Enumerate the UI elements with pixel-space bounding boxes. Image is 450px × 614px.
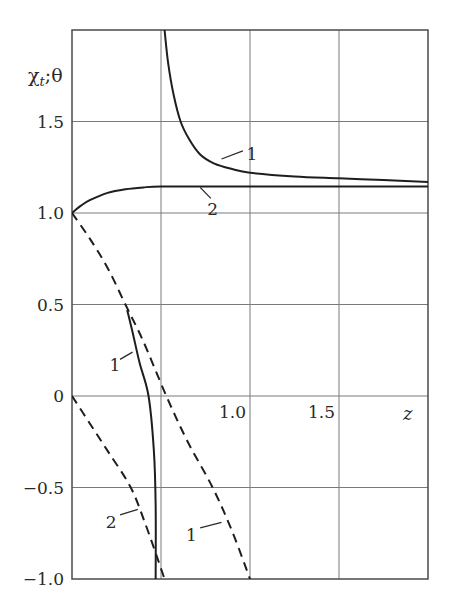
y-tick-label: 0.5 (37, 295, 64, 315)
curve-number-label: 2 (207, 199, 218, 219)
leader-line (120, 352, 132, 359)
curve-number-label: 2 (106, 512, 117, 532)
tick-labels: 1.51.00.50−0.5−1.01.01.5 (23, 112, 335, 590)
y-axis-label: χt;θ (28, 64, 63, 89)
y-tick-label: −1.0 (23, 569, 64, 589)
chart: 1.51.00.50−0.5−1.01.01.5 12121 χt;θ z (0, 0, 450, 614)
y-tick-label: 1.5 (37, 112, 64, 132)
y-tick-label: 1.0 (37, 203, 64, 223)
leader-line (120, 509, 138, 514)
curve-1-solid (127, 310, 156, 579)
y-tick-label: 0 (53, 386, 64, 406)
curve-number-label: 1 (186, 525, 197, 545)
y-tick-label: −0.5 (23, 478, 64, 498)
x-tick-label: 1.5 (308, 402, 335, 422)
curve-1-solid (165, 30, 428, 182)
leader-line (222, 151, 243, 159)
leader-line (200, 187, 211, 198)
x-tick-label: 1.0 (219, 402, 246, 422)
x-axis-label: z (402, 403, 413, 424)
curve-number-label: 1 (246, 144, 257, 164)
curve-number-label: 1 (109, 355, 120, 375)
leader-line (200, 522, 221, 527)
